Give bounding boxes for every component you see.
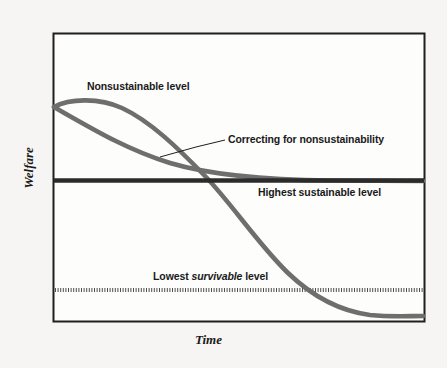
label-correcting-for-nonsustainability: Correcting for nonsustainability <box>228 133 384 145</box>
label-lowest-survivable-level: Lowest survivable level <box>153 270 268 282</box>
label-lowest-emphasis: survivable <box>191 270 242 282</box>
label-nonsustainable-level: Nonsustainable level <box>87 80 189 92</box>
chart-plot-area <box>0 0 447 368</box>
label-lowest-prefix: Lowest <box>153 270 191 282</box>
y-axis-title: Welfare <box>21 138 37 198</box>
chart-figure: Nonsustainable level Correcting for nons… <box>0 0 447 368</box>
label-lowest-suffix: level <box>242 270 268 282</box>
x-axis-title: Time <box>195 332 222 348</box>
label-highest-sustainable-level: Highest sustainable level <box>258 186 381 198</box>
